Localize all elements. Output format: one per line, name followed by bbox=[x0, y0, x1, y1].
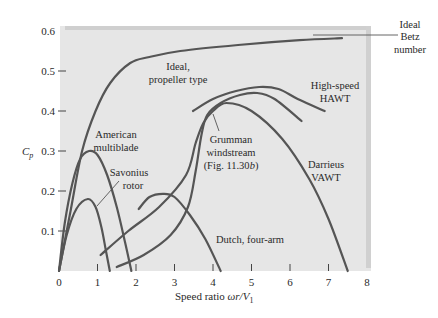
y-tick-label: 0.1 bbox=[41, 225, 55, 237]
svg-text:(Fig. 11.30b): (Fig. 11.30b) bbox=[204, 160, 259, 172]
svg-text:American: American bbox=[95, 129, 137, 140]
x-tick-label: 2 bbox=[133, 276, 139, 288]
svg-text:windstream: windstream bbox=[207, 147, 256, 158]
x-tick-label: 3 bbox=[172, 276, 178, 288]
svg-text:High-speed: High-speed bbox=[311, 80, 360, 91]
x-tick-label: 7 bbox=[326, 276, 332, 288]
y-tick-label: 0.2 bbox=[41, 185, 55, 197]
y-tick-label: 0.6 bbox=[41, 25, 55, 37]
x-tick-label: 6 bbox=[287, 276, 293, 288]
svg-text:Darrieus: Darrieus bbox=[308, 159, 344, 170]
svg-text:number: number bbox=[394, 44, 427, 55]
x-axis-title: Speed ratio ωr/V1 bbox=[175, 290, 253, 305]
plot-right-edge bbox=[366, 26, 371, 268]
svg-text:HAWT: HAWT bbox=[320, 93, 351, 104]
y-tick-label: 0.3 bbox=[41, 145, 55, 157]
power-coefficient-chart: 012345678 0.10.20.30.40.50.6 Ideal, prop… bbox=[0, 0, 438, 318]
svg-text:multiblade: multiblade bbox=[94, 142, 139, 153]
svg-text:rotor: rotor bbox=[123, 180, 144, 191]
svg-text:Betz: Betz bbox=[400, 31, 420, 42]
svg-text:Dutch, four-arm: Dutch, four-arm bbox=[216, 234, 284, 245]
y-axis-title: Cp bbox=[22, 145, 33, 160]
y-tick-label: 0.5 bbox=[41, 65, 55, 77]
x-tick-label: 5 bbox=[249, 276, 255, 288]
svg-text:Savonius: Savonius bbox=[110, 167, 149, 178]
x-tick-label: 4 bbox=[210, 276, 216, 288]
plot-top-edge bbox=[65, 26, 371, 30]
annotation-betz: Ideal Betz number bbox=[394, 19, 427, 55]
svg-text:Grumman: Grumman bbox=[210, 134, 253, 145]
svg-text:VAWT: VAWT bbox=[311, 172, 341, 183]
x-tick-label: 8 bbox=[364, 276, 370, 288]
svg-text:Ideal: Ideal bbox=[400, 19, 421, 30]
svg-text:Ideal,: Ideal, bbox=[166, 61, 190, 72]
x-tick-label: 1 bbox=[95, 276, 101, 288]
annotation-grumman-windstream: Grumman windstream (Fig. 11.30b) bbox=[204, 134, 259, 172]
x-tick-label: 0 bbox=[56, 276, 62, 288]
y-tick-label: 0.4 bbox=[41, 105, 55, 117]
svg-text:propeller type: propeller type bbox=[149, 74, 208, 85]
annotation-dutch-four-arm: Dutch, four-arm bbox=[216, 234, 284, 245]
